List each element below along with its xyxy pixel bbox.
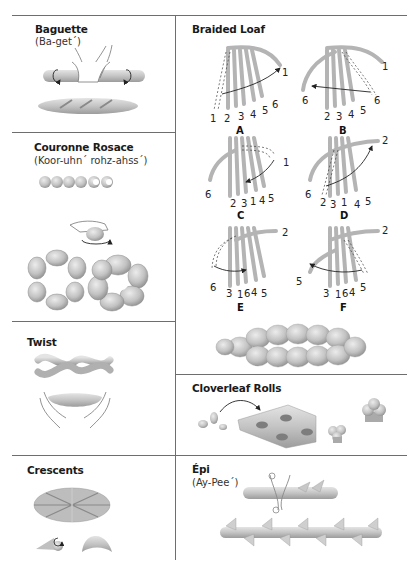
couronne-hand-shaping: [70, 221, 110, 244]
svg-text:6: 6: [302, 95, 308, 106]
svg-text:5: 5: [360, 105, 366, 116]
svg-text:F: F: [340, 302, 347, 313]
svg-text:3: 3: [238, 111, 244, 122]
svg-text:A: A: [236, 125, 244, 136]
illustrations: 1 2 3 4 5 6 1 A 6 2 3 4 5 6 1 B 6 2 3 1 …: [0, 0, 419, 574]
svg-text:3: 3: [336, 111, 342, 122]
svg-text:3: 3: [241, 198, 247, 209]
svg-text:2: 2: [320, 197, 326, 208]
svg-text:1: 1: [210, 113, 216, 124]
svg-text:1: 1: [335, 289, 341, 300]
cloverleaf-roll-small: [328, 425, 346, 443]
cloverleaf-dough-balls: [198, 412, 227, 430]
twist-rope-illustration: [38, 357, 110, 374]
svg-text:2: 2: [230, 198, 236, 209]
braided-loaf-finished: [216, 324, 366, 367]
epi-cutting-illustration: [243, 473, 338, 513]
svg-text:C: C: [237, 210, 244, 221]
svg-text:2: 2: [282, 227, 288, 238]
svg-text:5: 5: [262, 105, 268, 116]
svg-text:1: 1: [237, 289, 243, 300]
crescents-dough-circle: [34, 488, 110, 522]
svg-text:5: 5: [261, 288, 267, 299]
svg-text:2: 2: [382, 225, 388, 236]
svg-text:2: 2: [324, 111, 330, 122]
couronne-ring-baked: [88, 255, 148, 311]
svg-text:5: 5: [365, 196, 371, 207]
svg-text:6: 6: [210, 282, 216, 293]
crescents-shaped-roll: [82, 536, 112, 552]
epi-shaped-loaf: [220, 518, 382, 546]
twist-hands-illustration: [40, 392, 110, 428]
svg-text:6: 6: [374, 95, 380, 106]
svg-text:1: 1: [283, 157, 289, 168]
svg-text:E: E: [237, 302, 244, 313]
svg-text:3: 3: [330, 199, 336, 210]
svg-text:2: 2: [382, 135, 388, 146]
baguette-loaf-illustration: [38, 98, 138, 114]
couronne-ring-flat: [28, 250, 86, 310]
svg-text:D: D: [340, 210, 348, 221]
svg-text:3: 3: [323, 288, 329, 299]
svg-text:B: B: [339, 125, 347, 136]
svg-text:1: 1: [282, 67, 288, 78]
baguette-rolling-illustration: [43, 45, 145, 82]
svg-text:3: 3: [226, 288, 232, 299]
svg-text:6: 6: [305, 189, 311, 200]
cloverleaf-muffin-pan: [238, 405, 316, 448]
svg-text:6: 6: [244, 288, 250, 299]
svg-text:4: 4: [354, 199, 360, 210]
svg-text:2: 2: [224, 113, 230, 124]
svg-text:4: 4: [251, 287, 257, 298]
svg-text:1: 1: [250, 196, 256, 207]
cloverleaf-roll-baked: [362, 398, 386, 422]
svg-text:6: 6: [272, 99, 278, 110]
svg-text:4: 4: [348, 109, 354, 120]
svg-text:5: 5: [360, 282, 366, 293]
svg-text:1: 1: [382, 61, 388, 72]
svg-text:6: 6: [342, 288, 348, 299]
couronne-dough-pieces: [39, 176, 113, 188]
svg-text:6: 6: [205, 189, 211, 200]
svg-text:5: 5: [268, 193, 274, 204]
cloverleaf-arrow: [220, 401, 260, 413]
svg-text:4: 4: [250, 109, 256, 120]
svg-text:5: 5: [296, 276, 302, 287]
svg-text:4: 4: [259, 195, 265, 206]
braided-strands: [210, 47, 382, 286]
svg-text:4: 4: [349, 287, 355, 298]
svg-text:1: 1: [341, 197, 347, 208]
crescents-rolling-illustration: [36, 538, 63, 551]
